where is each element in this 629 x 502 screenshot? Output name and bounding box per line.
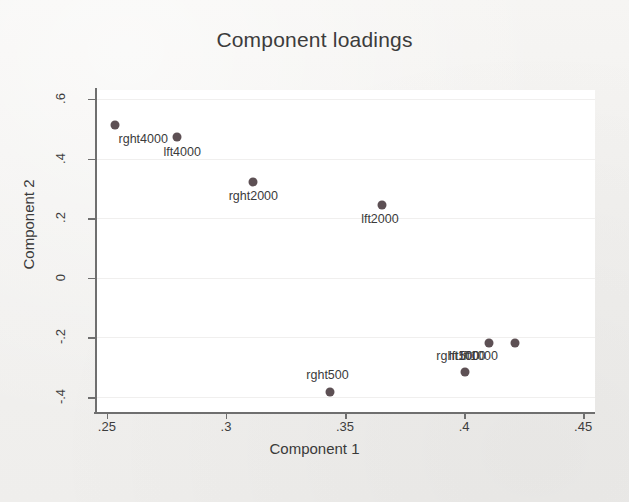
y-tick-label-0: .6 xyxy=(53,78,68,118)
y-tick-0 xyxy=(88,99,95,101)
y-tick-2 xyxy=(88,218,95,220)
data-point-label: rght2000 xyxy=(229,189,278,203)
gridline-y-0 xyxy=(95,99,595,100)
x-tick-label-1: .3 xyxy=(202,419,250,434)
x-tick-label-2: .35 xyxy=(321,419,369,434)
data-point-marker xyxy=(173,133,182,142)
x-tick-0 xyxy=(107,412,109,419)
gridline-y-3 xyxy=(95,278,595,279)
y-tick-4 xyxy=(88,337,95,339)
y-tick-1 xyxy=(88,159,95,161)
data-point-marker xyxy=(485,338,494,347)
data-point-marker xyxy=(511,339,520,348)
y-tick-label-1: .4 xyxy=(53,138,68,178)
x-tick-label-4: .45 xyxy=(559,419,607,434)
x-axis-title: Component 1 xyxy=(0,440,629,457)
data-point-marker xyxy=(461,367,470,376)
data-point-marker xyxy=(249,177,258,186)
data-point-marker xyxy=(325,387,334,396)
x-tick-label-0: .25 xyxy=(83,419,131,434)
x-tick-3 xyxy=(464,412,466,419)
gridline-y-5 xyxy=(95,397,595,398)
data-point-label: rght500 xyxy=(306,368,348,382)
data-point-label: lft1000 xyxy=(460,349,498,363)
x-tick-4 xyxy=(583,412,585,419)
data-point-label: lft2000 xyxy=(361,212,399,226)
gridline-y-2 xyxy=(95,218,595,219)
y-tick-5 xyxy=(88,397,95,399)
x-tick-1 xyxy=(226,412,228,419)
component-loadings-chart: Component loadings .6.4.20-.2-.4 .25.3.3… xyxy=(0,0,629,502)
x-tick-2 xyxy=(345,412,347,419)
data-point-marker xyxy=(111,121,120,130)
y-tick-label-4: -.2 xyxy=(53,317,68,357)
gridline-y-4 xyxy=(95,337,595,338)
plot-area xyxy=(95,90,595,412)
y-tick-3 xyxy=(88,278,95,280)
y-tick-label-3: 0 xyxy=(53,257,68,297)
data-point-label: rght4000 xyxy=(119,132,168,146)
y-axis-line xyxy=(95,88,97,414)
y-axis-title: Component 2 xyxy=(20,135,37,315)
chart-title: Component loadings xyxy=(0,28,629,52)
x-tick-label-3: .4 xyxy=(440,419,488,434)
y-tick-label-5: -.4 xyxy=(53,377,68,417)
data-point-label: lft4000 xyxy=(163,145,201,159)
data-point-marker xyxy=(377,200,386,209)
y-tick-label-2: .2 xyxy=(53,198,68,238)
